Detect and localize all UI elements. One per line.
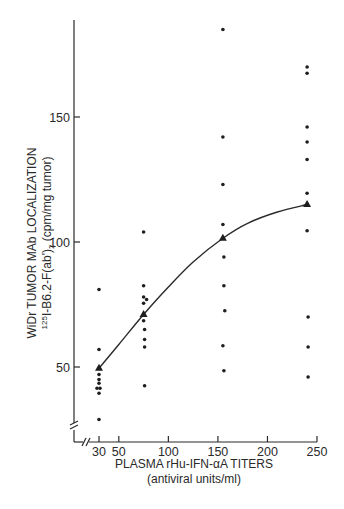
- x-tick-label: 250: [307, 445, 328, 459]
- data-point: [305, 72, 309, 76]
- data-point: [306, 345, 310, 349]
- data-point: [305, 229, 309, 233]
- data-point: [306, 315, 310, 319]
- data-point: [222, 255, 226, 259]
- x-tick-label: 30: [92, 445, 106, 459]
- data-point: [142, 319, 146, 323]
- data-point: [97, 418, 101, 422]
- x-axis-break-icon: [82, 438, 90, 446]
- data-point: [142, 295, 146, 299]
- data-point: [221, 28, 225, 32]
- axes: [70, 20, 317, 446]
- data-point: [306, 375, 310, 379]
- data-point: [222, 369, 226, 373]
- data-point: [221, 183, 225, 187]
- data-point: [221, 344, 225, 348]
- data-point: [143, 338, 147, 342]
- data-point: [222, 284, 226, 288]
- scatter-chart: 50100150 3050100150200250 PLASMA rHu-IFN…: [0, 0, 344, 509]
- data-point: [98, 387, 102, 391]
- data-point: [223, 309, 227, 313]
- data-point: [97, 392, 101, 396]
- y-axis-subtitle-main: I-B6.2-F(ab'): [40, 249, 54, 316]
- y-axis-subtitle: 125I-B6.2-F(ab')2 (cpm/mg tumor): [40, 157, 56, 330]
- data-point: [97, 378, 101, 382]
- y-tick-label: 150: [49, 111, 70, 125]
- data-point: [145, 298, 149, 302]
- fitted-curve: [99, 205, 307, 369]
- y-ticks: [74, 117, 80, 367]
- data-point: [305, 125, 309, 129]
- data-point: [143, 328, 147, 332]
- data-point: [97, 373, 101, 377]
- x-axis-title: PLASMA rHu-IFN-αA TITERS: [115, 457, 273, 471]
- y-axis-subtitle-suffix: (cpm/mg tumor): [40, 157, 54, 245]
- x-ticks: [99, 436, 317, 442]
- data-point: [97, 288, 101, 292]
- mean-triangle-marker: [303, 200, 311, 207]
- data-point: [221, 135, 225, 139]
- x-axis-subtitle: (antiviral units/ml): [147, 472, 241, 486]
- data-point: [143, 384, 147, 388]
- data-point: [142, 230, 146, 234]
- y-axis-title: WiDr TUMOR MAb LOCALIZATION: [25, 148, 39, 339]
- data-point: [142, 302, 146, 306]
- data-point: [142, 284, 146, 288]
- y-axis-subtitle-superscript: 125: [40, 316, 49, 330]
- data-point: [97, 382, 101, 386]
- data-point: [305, 158, 309, 162]
- data-point: [221, 223, 225, 227]
- data-points: [95, 28, 310, 422]
- y-tick-label: 50: [56, 361, 70, 375]
- mean-markers: [95, 200, 311, 371]
- data-point: [305, 192, 309, 196]
- data-point: [305, 65, 309, 69]
- data-point: [97, 348, 101, 352]
- mean-triangle-marker: [219, 234, 227, 241]
- data-point: [305, 140, 309, 144]
- data-point: [143, 345, 147, 349]
